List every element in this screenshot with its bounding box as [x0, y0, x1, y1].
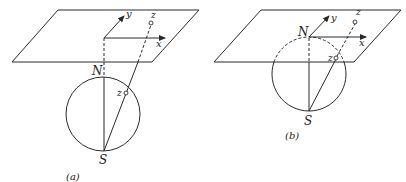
caption-a: (a) [66, 171, 80, 182]
diagram-canvas: y x z z N S (a) y x z z N S (b) [0, 0, 406, 182]
x-axis-label-b: x [359, 37, 365, 48]
y-axis-label-b: y [330, 12, 337, 23]
south-pole-label-a: S [99, 153, 107, 167]
sphere-point-label-a: z [116, 88, 122, 98]
sphere-point-b [334, 56, 338, 60]
x-axis-label-a: x [156, 38, 162, 49]
sphere-point-label-b: z [327, 53, 333, 63]
plane-point-label-b: z [355, 7, 361, 17]
plane-point-b [353, 20, 357, 24]
plane-point-a [149, 21, 153, 25]
plane-point-label-a: z [150, 10, 156, 20]
figure-a: y x z z N S (a) [12, 8, 199, 182]
caption-b: (b) [285, 130, 299, 141]
stereographic-projection-figure: y x z z N S (a) y x z z N S (b) [0, 0, 406, 182]
y-axis-label-a: y [125, 8, 132, 19]
y-axis-arrow-a [104, 16, 124, 38]
sphere-point-a [124, 91, 128, 95]
figure-b: y x z z N S (b) [214, 7, 401, 141]
projection-line-a [104, 62, 138, 151]
y-axis-arrow-b [309, 16, 329, 37]
riemann-sphere-a [66, 77, 140, 151]
south-pole-label-b: S [304, 114, 312, 128]
projection-line-hidden-a [138, 25, 151, 62]
north-pole-label-b: N [297, 25, 309, 39]
projection-line-hidden-b [337, 24, 355, 56]
north-pole-label-a: N [91, 64, 103, 78]
